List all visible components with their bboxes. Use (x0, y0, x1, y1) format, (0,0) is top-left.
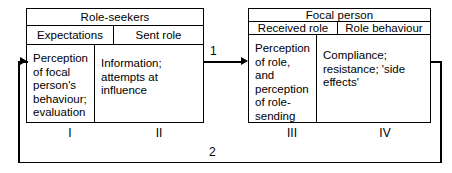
connector-2-label: 2 (209, 145, 216, 159)
cell-compliance-resistance-side-effects: Compliance; resistance; 'side effects' (317, 35, 430, 123)
box-role-seekers-body-row: Perception of focal person's behaviour; … (27, 45, 203, 122)
box-focal-person-title: Focal person (249, 9, 430, 22)
numeral-label-iii: III (277, 126, 307, 140)
connector-2-segment-left-vertical (18, 61, 20, 162)
connector-2-segment-bottom (18, 162, 442, 164)
numeral-label-iv: IV (370, 126, 400, 140)
subheader-role-behaviour: Role behaviour (338, 22, 430, 34)
subheader-expectations: Expectations (27, 26, 114, 44)
cell-perception-of-focal-person-behaviour: Perception of focal person's behaviour; … (27, 45, 95, 122)
box-role-seekers-title: Role-seekers (27, 9, 203, 26)
numeral-label-i: I (55, 126, 85, 140)
box-role-seekers-subheader-row: Expectations Sent role (27, 26, 203, 45)
box-focal-person: Focal person Received role Role behaviou… (248, 8, 431, 123)
connector-1-label: 1 (210, 44, 217, 58)
box-focal-person-subheader-row: Received role Role behaviour (249, 22, 430, 35)
box-role-seekers: Role-seekers Expectations Sent role Perc… (26, 8, 204, 123)
arrowhead-right-icon (241, 57, 248, 65)
numeral-label-ii: II (144, 126, 174, 140)
subheader-sent-role: Sent role (114, 26, 203, 44)
arrowhead-feedback-icon (20, 57, 27, 65)
box-focal-person-body-row: Perception of role, and perception of ro… (249, 35, 430, 123)
subheader-received-role: Received role (249, 22, 338, 34)
connector-1-line (204, 61, 243, 63)
cell-information-attempts-at-influence: Information; attempts at influence (95, 45, 203, 122)
connector-2-segment-right-vertical (440, 61, 442, 163)
diagram-canvas: Role-seekers Expectations Sent role Perc… (0, 0, 452, 173)
cell-perception-of-role-and-role-sending: Perception of role, and perception of ro… (249, 35, 317, 123)
